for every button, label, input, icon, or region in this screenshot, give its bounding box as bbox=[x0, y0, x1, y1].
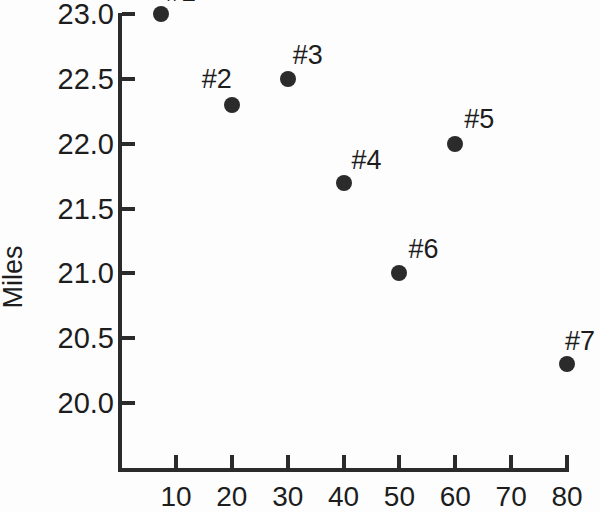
x-tick-mark bbox=[453, 455, 457, 468]
y-tick-mark bbox=[122, 271, 135, 275]
scatter-plot: Miles 20.020.521.021.522.022.523.0 10203… bbox=[0, 0, 600, 512]
y-tick-mark bbox=[122, 207, 135, 211]
data-point bbox=[447, 136, 463, 152]
x-tick-label: 50 bbox=[384, 483, 415, 511]
data-point-label: #1 bbox=[166, 0, 196, 6]
x-tick-mark bbox=[342, 455, 346, 468]
data-point-label: #6 bbox=[408, 236, 438, 263]
x-axis-line bbox=[118, 468, 569, 472]
y-tick-label: 23.0 bbox=[58, 0, 114, 29]
data-point-label: #2 bbox=[202, 65, 232, 92]
data-point bbox=[280, 71, 296, 87]
data-point-label: #4 bbox=[352, 146, 382, 173]
y-tick-mark bbox=[122, 77, 135, 81]
x-tick-label: 20 bbox=[216, 483, 247, 511]
data-point-label: #3 bbox=[293, 41, 323, 68]
x-tick-label: 80 bbox=[551, 483, 582, 511]
y-axis-title: Miles bbox=[0, 245, 27, 308]
data-point bbox=[391, 265, 407, 281]
data-point bbox=[336, 175, 352, 191]
data-point bbox=[559, 356, 575, 372]
x-tick-mark bbox=[397, 455, 401, 468]
data-point-label: #5 bbox=[464, 105, 494, 132]
y-tick-mark bbox=[122, 401, 135, 405]
x-tick-mark bbox=[230, 455, 234, 468]
x-tick-label: 70 bbox=[496, 483, 527, 511]
y-tick-label: 22.0 bbox=[58, 129, 114, 158]
y-tick-label: 21.0 bbox=[58, 259, 114, 288]
y-tick-label: 21.5 bbox=[58, 194, 114, 223]
data-point bbox=[224, 97, 240, 113]
x-tick-mark bbox=[565, 455, 569, 468]
data-point-label: #7 bbox=[565, 328, 595, 355]
x-tick-label: 40 bbox=[328, 483, 359, 511]
y-tick-label: 20.0 bbox=[58, 389, 114, 418]
x-tick-label: 60 bbox=[440, 483, 471, 511]
x-tick-mark bbox=[286, 455, 290, 468]
y-tick-mark bbox=[122, 12, 135, 16]
y-tick-label: 22.5 bbox=[58, 64, 114, 93]
data-point bbox=[153, 6, 169, 22]
y-tick-mark bbox=[122, 336, 135, 340]
x-tick-label: 10 bbox=[160, 483, 191, 511]
x-tick-mark bbox=[174, 455, 178, 468]
x-tick-label: 30 bbox=[272, 483, 303, 511]
y-tick-mark bbox=[122, 142, 135, 146]
x-tick-mark bbox=[509, 455, 513, 468]
y-tick-label: 20.5 bbox=[58, 324, 114, 353]
